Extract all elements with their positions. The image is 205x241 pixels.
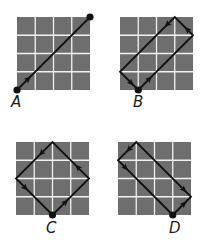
label-c: C [46,219,57,237]
start-dot-icon [169,211,176,218]
panel-a [13,13,93,93]
grid-paths-figure: A B C D [0,0,205,241]
label-a: A [10,93,21,111]
panel-b [120,17,193,94]
label-d: D [169,219,181,237]
panel-d [118,142,191,219]
start-dot-icon [49,211,56,218]
end-dot-icon [86,13,93,20]
label-b: B [133,93,143,111]
panel-c [16,142,89,219]
